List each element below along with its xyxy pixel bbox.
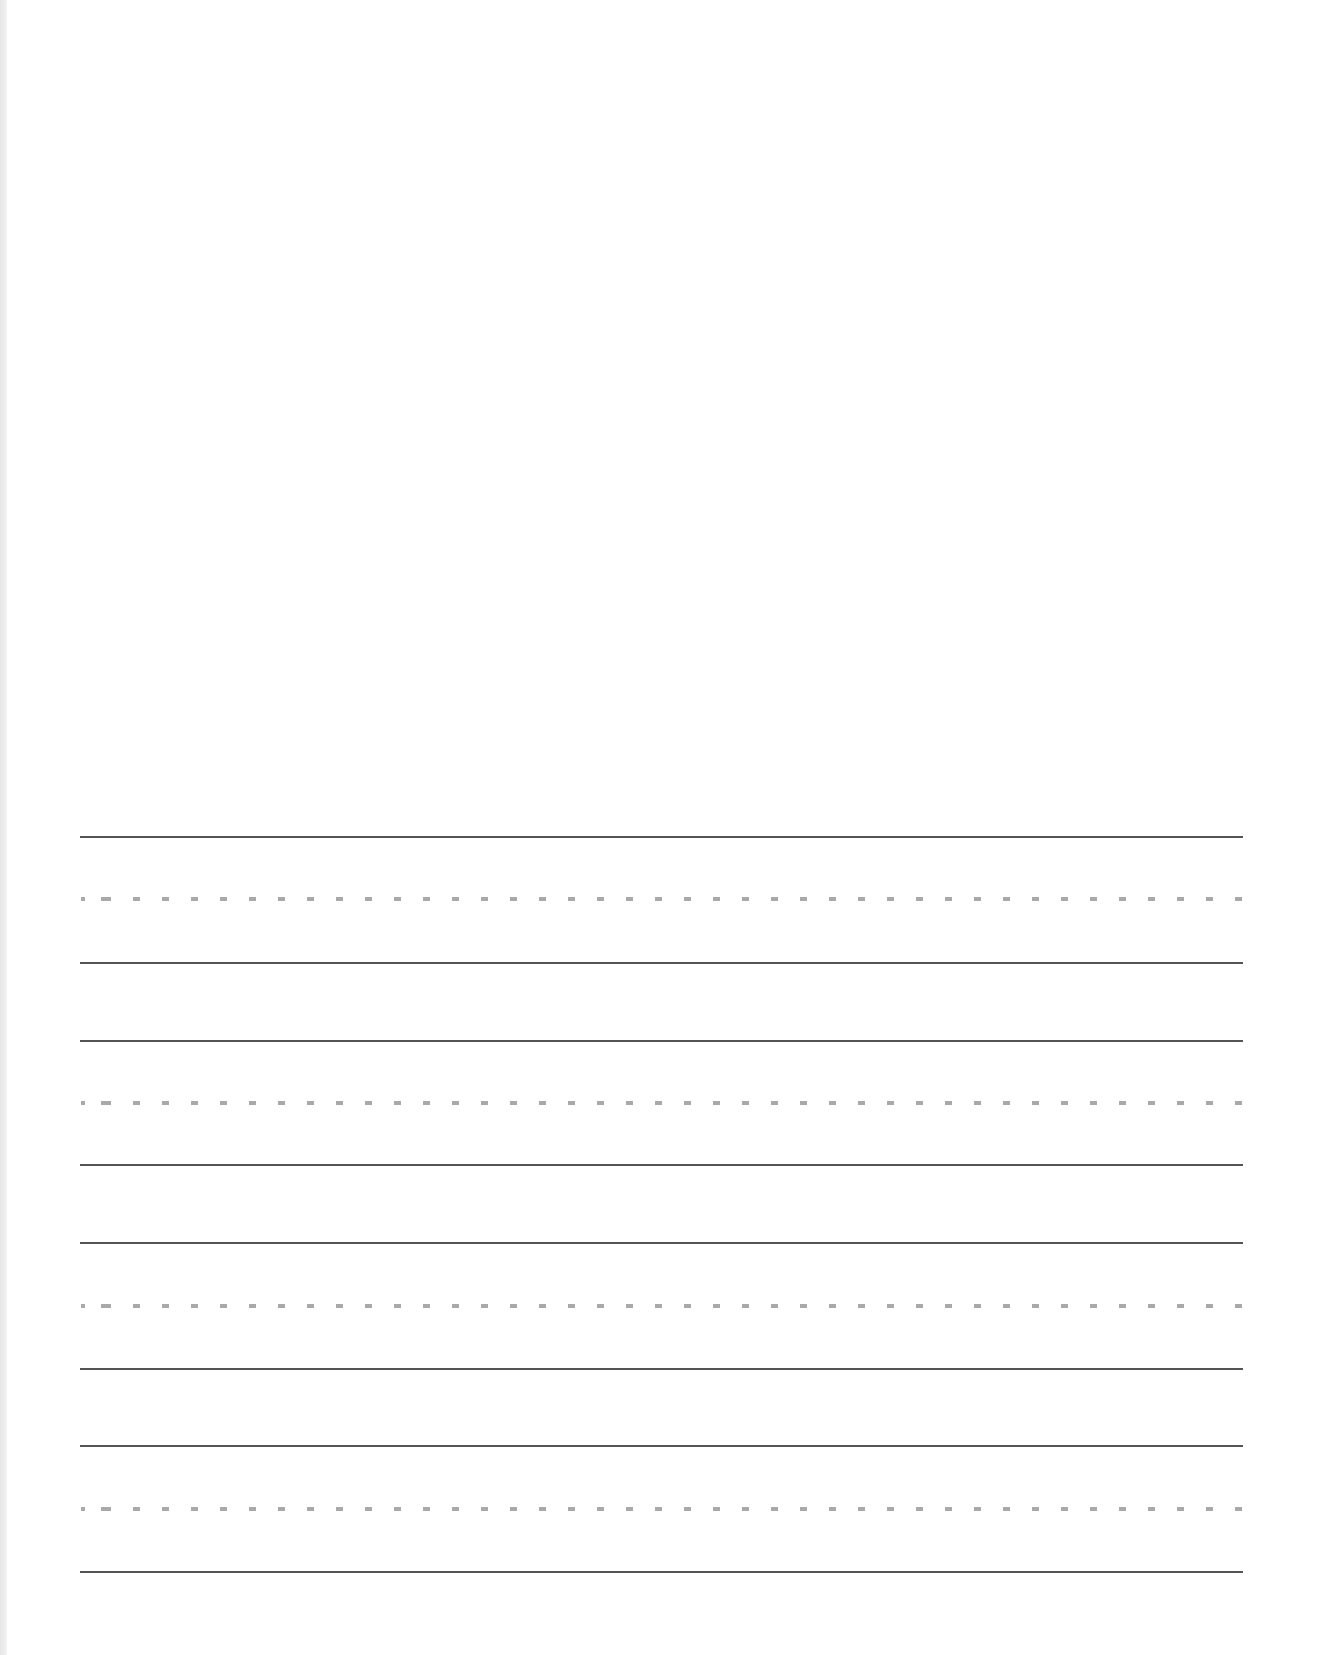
top-line <box>80 1445 1243 1447</box>
top-line <box>80 1242 1243 1244</box>
writing-lines <box>0 0 1335 1655</box>
midline-dashed <box>80 1101 1243 1105</box>
top-line <box>80 1040 1243 1042</box>
midline-dashed <box>80 1304 1243 1308</box>
base-line <box>80 962 1243 964</box>
midline-dashed <box>80 897 1243 901</box>
base-line <box>80 1164 1243 1166</box>
base-line <box>80 1571 1243 1573</box>
midline-dashed <box>80 1507 1243 1511</box>
base-line <box>80 1368 1243 1370</box>
top-line <box>80 836 1243 838</box>
